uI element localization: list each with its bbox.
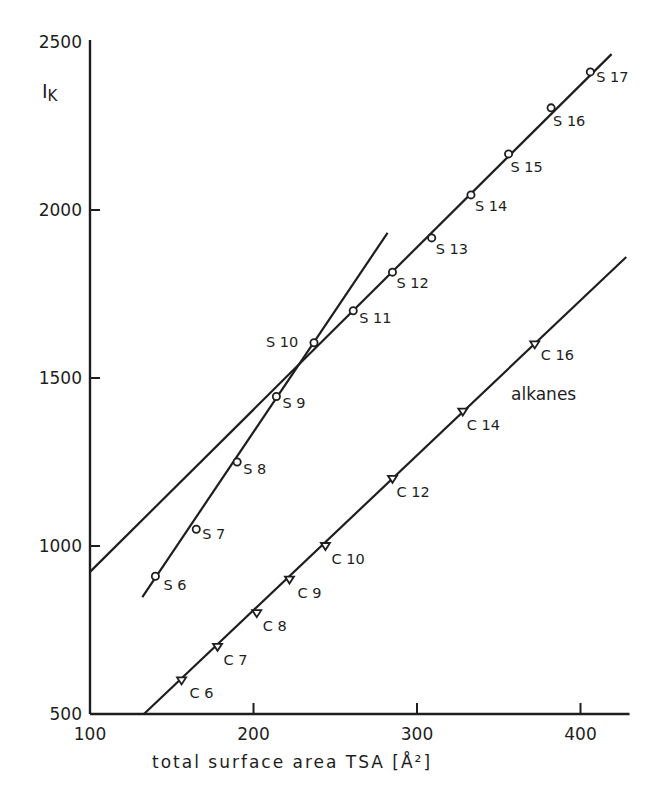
point-label: S 9 (282, 395, 305, 411)
data-point: C 7 (213, 644, 247, 668)
circle-marker-icon (234, 458, 241, 465)
point-label: S 12 (396, 275, 428, 291)
triangle-marker-icon (321, 543, 330, 550)
x-tick-label: 400 (564, 724, 596, 744)
data-point: S 16 (547, 104, 585, 129)
point-label: S 7 (202, 526, 225, 542)
triangle-marker-icon (177, 677, 186, 684)
data-point: C 6 (177, 677, 213, 701)
point-label: C 6 (190, 685, 214, 701)
data-point: C 12 (388, 476, 430, 500)
y-axis-title: IK (42, 80, 59, 105)
fit-line (142, 233, 387, 597)
point-label: C 9 (297, 585, 321, 601)
point-label: S 14 (475, 198, 507, 214)
point-label: C 12 (396, 484, 429, 500)
point-label: C 16 (541, 347, 574, 363)
circle-marker-icon (152, 573, 159, 580)
circle-marker-icon (273, 393, 280, 400)
circle-marker-icon (428, 234, 435, 241)
data-point: S 17 (587, 68, 629, 85)
circle-marker-icon (350, 307, 357, 314)
data-point: S 11 (350, 307, 392, 326)
circle-marker-icon (505, 150, 512, 157)
data-point: C 10 (321, 543, 365, 567)
circle-marker-icon (467, 191, 474, 198)
point-label: C 8 (263, 618, 287, 634)
x-axis-title: total surface area TSA [Å²] (152, 751, 432, 772)
triangle-marker-icon (252, 610, 261, 617)
point-label: S 10 (266, 334, 298, 350)
data-point: S 12 (389, 269, 429, 292)
point-label: S 13 (436, 241, 468, 257)
point-label: S 8 (243, 461, 266, 477)
point-label: C 10 (331, 551, 364, 567)
y-tick-label: 2000 (39, 200, 82, 220)
y-tick-label: 2500 (39, 32, 82, 52)
circle-marker-icon (547, 104, 554, 111)
data-point: S 9 (273, 393, 306, 412)
point-label: C 14 (467, 417, 500, 433)
y-tick-label: 500 (50, 704, 82, 724)
circle-marker-icon (587, 68, 594, 75)
point-label: S 17 (596, 69, 628, 85)
data-point: S 8 (234, 458, 267, 477)
point-label: S 11 (359, 310, 391, 326)
circle-marker-icon (389, 269, 396, 276)
data-point: S 13 (428, 234, 468, 257)
data-point: C 16 (530, 341, 574, 363)
y-tick-label: 1000 (39, 536, 82, 556)
data-point: C 9 (285, 577, 321, 601)
data-point: C 8 (252, 610, 286, 634)
circle-marker-icon (310, 339, 317, 346)
point-label: S 15 (511, 159, 543, 175)
data-point: S 15 (505, 150, 543, 175)
circle-marker-icon (193, 526, 200, 533)
triangle-marker-icon (285, 577, 294, 584)
x-tick-label: 300 (401, 724, 433, 744)
data-point: S 7 (193, 526, 226, 543)
x-tick-label: 100 (74, 724, 106, 744)
point-label: S 16 (553, 113, 585, 129)
y-tick-label: 1500 (39, 368, 82, 388)
x-tick-label: 200 (237, 724, 269, 744)
alkanes-annotation: alkanes (511, 384, 576, 404)
chart-svg: 5001000150020002500100200300400 S 6S 7S … (0, 0, 658, 799)
data-point: S 14 (467, 191, 507, 214)
point-label: S 6 (163, 577, 186, 593)
triangle-marker-icon (213, 644, 222, 651)
data-point: S 6 (152, 573, 187, 594)
point-label: C 7 (224, 652, 248, 668)
data-point: C 14 (458, 409, 500, 433)
